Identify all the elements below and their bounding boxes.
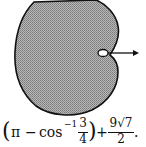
arrow-head-icon (133, 50, 139, 56)
fraction-2-denominator: 2 (108, 132, 134, 146)
formula: ( π − cos −1 3 4 ) + 9√7 2 . (2, 119, 146, 147)
fraction-1-denominator: 4 (78, 132, 88, 146)
cos-function: cos (39, 124, 62, 140)
plus-sign: + (96, 124, 108, 140)
minus-sign: − (25, 124, 37, 140)
pi-symbol: π (11, 124, 20, 140)
fraction-1-numerator: 3 (78, 116, 88, 130)
cardioid-region (15, 0, 119, 115)
open-paren: ( (2, 118, 11, 143)
small-hole (98, 50, 108, 57)
fraction-2-numerator: 9√7 (108, 116, 134, 130)
inverse-superscript: −1 (64, 119, 77, 129)
period: . (134, 124, 138, 140)
